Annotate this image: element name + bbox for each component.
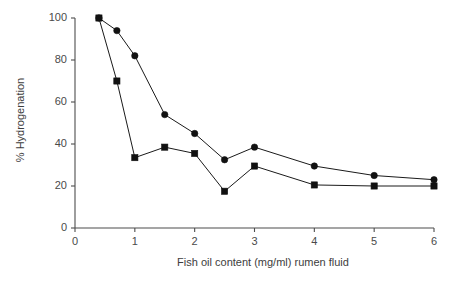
data-point-square xyxy=(132,155,138,161)
x-axis-tick-label: 4 xyxy=(311,235,317,247)
y-axis-tick-label: 20 xyxy=(55,179,67,191)
series-layer xyxy=(96,15,437,195)
data-point-square xyxy=(162,144,168,150)
data-point-square xyxy=(192,150,198,156)
y-axis-tick-label: 0 xyxy=(61,221,67,233)
chart-figure: 020406080100 0123456 Fish oil content (m… xyxy=(0,0,456,283)
data-point-circle xyxy=(191,130,197,136)
x-axis-tick-label: 3 xyxy=(251,235,257,247)
x-axis-title: Fish oil content (mg/ml) rumen fluid xyxy=(177,256,349,268)
data-point-circle xyxy=(132,53,138,59)
y-axis: 020406080100 xyxy=(49,11,75,233)
x-axis: 0123456 xyxy=(72,228,437,247)
data-point-square xyxy=(251,163,257,169)
data-point-square xyxy=(96,15,102,21)
y-axis-tick-label: 80 xyxy=(55,53,67,65)
data-point-square xyxy=(221,188,227,194)
x-axis-tick-label: 1 xyxy=(132,235,138,247)
y-axis-title: % Hydrogenation xyxy=(14,78,26,162)
data-point-square xyxy=(311,182,317,188)
y-axis-tick-label: 100 xyxy=(49,11,67,23)
x-axis-tick-label: 2 xyxy=(192,235,198,247)
data-point-circle xyxy=(162,111,168,117)
series-line-square xyxy=(99,18,434,191)
data-point-square xyxy=(431,183,437,189)
x-axis-tick-label: 5 xyxy=(371,235,377,247)
data-point-square xyxy=(371,183,377,189)
y-axis-tick-label: 60 xyxy=(55,95,67,107)
data-point-circle xyxy=(251,144,257,150)
x-axis-tick-label: 0 xyxy=(72,235,78,247)
data-point-circle xyxy=(221,157,227,163)
x-axis-tick-label: 6 xyxy=(431,235,437,247)
series-line-circle xyxy=(99,18,434,180)
data-point-circle xyxy=(311,163,317,169)
data-point-circle xyxy=(431,177,437,183)
data-point-circle xyxy=(114,27,120,33)
line-chart: 020406080100 0123456 Fish oil content (m… xyxy=(0,0,456,283)
y-axis-tick-label: 40 xyxy=(55,137,67,149)
data-point-circle xyxy=(371,172,377,178)
data-point-square xyxy=(114,78,120,84)
